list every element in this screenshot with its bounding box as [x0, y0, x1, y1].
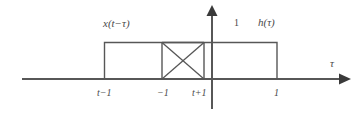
label-amplitude-one: 1: [234, 18, 239, 28]
label-x-shifted: x(t−τ): [103, 18, 130, 29]
label-tau-axis: τ: [330, 58, 334, 69]
tau-axis-arrowhead: [339, 74, 351, 85]
tick-label-t-plus-1: t+1: [192, 88, 207, 98]
vertical-axis-arrowhead: [207, 5, 218, 16]
pulse-h-outline: [162, 43, 277, 80]
pulse-x-shifted-outline: [105, 43, 205, 80]
tick-label-minus-1: −1: [157, 88, 169, 98]
convolution-figure: x(t−τ) 1 h(τ) τ t−1 −1 t+1 1: [0, 0, 362, 123]
tick-label-t-minus-1: t−1: [97, 88, 112, 98]
tick-label-one: 1: [274, 88, 279, 98]
label-h: h(τ): [258, 17, 275, 28]
figure-canvas: [0, 0, 362, 123]
